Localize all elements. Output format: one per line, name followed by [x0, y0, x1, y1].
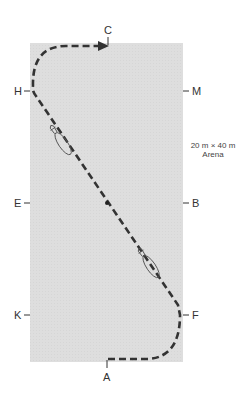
marker-e: E	[14, 197, 21, 209]
marker-b: B	[192, 197, 199, 209]
arena-diagram: C A H E K M B F 20 m × 40 m Arena	[0, 0, 243, 404]
marker-f: F	[192, 309, 199, 321]
marker-h: H	[14, 85, 22, 97]
marker-c: C	[104, 24, 112, 36]
marker-a: A	[103, 371, 111, 383]
arena-size-label: 20 m × 40 m	[191, 141, 236, 150]
arena-name-label: Arena	[202, 150, 224, 159]
marker-k: K	[14, 309, 22, 321]
center-dot-icon	[105, 201, 109, 205]
marker-m: M	[192, 85, 201, 97]
